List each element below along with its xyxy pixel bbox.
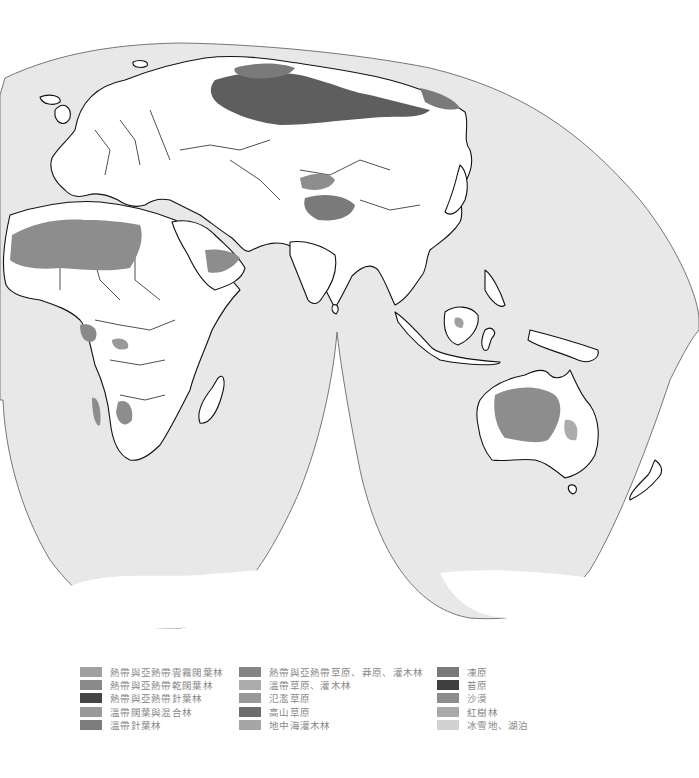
- legend-label: 苔原: [467, 678, 488, 692]
- legend-swatch: [80, 720, 102, 730]
- legend-label: 地中海灌木林: [269, 718, 331, 732]
- legend-swatch: [80, 693, 102, 703]
- legend-swatch: [239, 667, 261, 677]
- legend-swatch: [239, 707, 261, 717]
- legend-label: 沙漠: [467, 691, 488, 705]
- legend-swatch: [239, 720, 261, 730]
- legend-swatch: [437, 693, 459, 703]
- legend-item: 苔原: [437, 678, 529, 691]
- antarctica: [62, 568, 605, 629]
- biome-legend: 熱帶與亞熱帶雲霧闊葉林 熱帶與亞熱帶乾闊葉林 熱帶與亞熱帶針葉林 溫帶闊葉與混合…: [0, 665, 699, 735]
- legend-item: 熱帶與亞熱帶雲霧闊葉林: [80, 665, 223, 678]
- sri-lanka: [332, 305, 338, 314]
- world-biome-map: [0, 0, 699, 640]
- legend-label: 熱帶與亞熱帶雲霧闊葉林: [110, 665, 223, 679]
- legend-swatch: [239, 680, 261, 690]
- legend-swatch: [437, 680, 459, 690]
- legend-label: 熱帶與亞熱帶草原、莽原、灌木林: [269, 665, 424, 679]
- legend-item: 高山草原: [239, 705, 424, 718]
- legend-swatch: [437, 667, 459, 677]
- legend-item: 熱帶與亞熱帶乾闊葉林: [80, 678, 223, 691]
- legend-label: 溫帶闊葉與混合林: [110, 705, 192, 719]
- legend-column-2: 熱帶與亞熱帶草原、莽原、灌木林 溫帶草原、灌木林 氾濫草原 高山草原 地中海灌木…: [239, 665, 424, 732]
- legend-label: 熱帶與亞熱帶針葉林: [110, 691, 203, 705]
- legend-label: 紅樹林: [467, 705, 498, 719]
- legend-label: 高山草原: [269, 705, 310, 719]
- legend-label: 熱帶與亞熱帶乾闊葉林: [110, 678, 213, 692]
- legend-item: 溫帶針葉林: [80, 719, 223, 732]
- svalbard: [133, 61, 148, 68]
- legend-item: 地中海灌木林: [239, 719, 424, 732]
- biome-australia-desert: [494, 388, 560, 443]
- legend-swatch: [239, 693, 261, 703]
- legend-item: 溫帶草原、灌木林: [239, 678, 424, 691]
- legend-column-3: 凍原 苔原 沙漠 紅樹林 冰雪地、湖泊: [437, 665, 529, 732]
- legend-item: 凍原: [437, 665, 529, 678]
- legend-swatch: [80, 667, 102, 677]
- british-isles: [55, 105, 70, 123]
- legend-item: 溫帶闊葉與混合林: [80, 705, 223, 718]
- legend-swatch: [437, 707, 459, 717]
- legend-column-1: 熱帶與亞熱帶雲霧闊葉林 熱帶與亞熱帶乾闊葉林 熱帶與亞熱帶針葉林 溫帶闊葉與混合…: [80, 665, 223, 732]
- legend-swatch: [80, 680, 102, 690]
- legend-swatch: [80, 707, 102, 717]
- legend-label: 凍原: [467, 665, 488, 679]
- legend-item: 紅樹林: [437, 705, 529, 718]
- legend-label: 氾濫草原: [269, 691, 310, 705]
- legend-label: 溫帶針葉林: [110, 718, 162, 732]
- legend-label: 冰雪地、湖泊: [467, 718, 529, 732]
- legend-label: 溫帶草原、灌木林: [269, 678, 351, 692]
- legend-item: 冰雪地、湖泊: [437, 719, 529, 732]
- biome-sahara: [10, 220, 142, 271]
- legend-item: 熱帶與亞熱帶草原、莽原、灌木林: [239, 665, 424, 678]
- legend-item: 氾濫草原: [239, 692, 424, 705]
- legend-swatch: [437, 720, 459, 730]
- legend-item: 熱帶與亞熱帶針葉林: [80, 692, 223, 705]
- legend-item: 沙漠: [437, 692, 529, 705]
